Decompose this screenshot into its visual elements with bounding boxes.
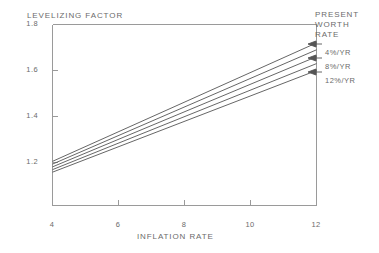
axes xyxy=(53,25,317,206)
series-line-12pct xyxy=(53,71,317,173)
legend-title-line-3: RATE xyxy=(315,30,377,40)
legend: PRESENT WORTH RATE 4%/YR 8%/YR 12%/YR xyxy=(315,10,377,84)
chart-figure: LEVELIZING FACTOR INFLATION RATE 1.8 1.6… xyxy=(0,0,379,253)
legend-item-label: 12%/YR xyxy=(325,76,356,85)
series-line-4pct xyxy=(53,43,317,161)
legend-item-4pct: 4%/YR xyxy=(315,44,377,56)
legend-title-line-2: WORTH xyxy=(315,20,377,30)
series-line-10pct xyxy=(53,64,317,170)
legend-item-label: 4%/YR xyxy=(325,48,351,57)
series-line-8pct xyxy=(53,57,317,167)
legend-title-line-1: PRESENT xyxy=(315,10,377,20)
x-tick-marks xyxy=(119,200,251,206)
legend-item-12pct: 12%/YR xyxy=(315,72,377,84)
data-lines xyxy=(53,43,317,172)
legend-item-label: 8%/YR xyxy=(325,62,351,71)
series-line-6pct xyxy=(53,50,317,164)
legend-item-8pct: 8%/YR xyxy=(315,58,377,70)
y-tick-marks xyxy=(53,25,58,163)
